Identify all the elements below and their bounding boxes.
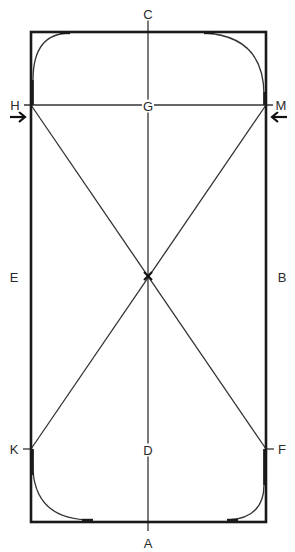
corner-curve-top-left [33, 33, 70, 105]
marker-k: K [9, 443, 20, 456]
marker-h: H [9, 99, 20, 112]
arena-diagram [0, 0, 295, 552]
corner-curve-bottom-right [228, 449, 264, 520]
corner-curve-top-right [204, 33, 264, 105]
arrow-right-icon [10, 112, 25, 122]
arrow-left-icon [272, 112, 287, 122]
marker-e: E [10, 271, 19, 284]
marker-m: M [275, 99, 288, 112]
marker-f: F [277, 443, 287, 456]
corner-curve-bottom-left [33, 449, 92, 520]
marker-d: D [142, 444, 153, 457]
marker-b: B [278, 271, 287, 284]
marker-c: C [142, 8, 153, 21]
marker-a: A [144, 537, 153, 550]
marker-g: G [142, 100, 154, 113]
